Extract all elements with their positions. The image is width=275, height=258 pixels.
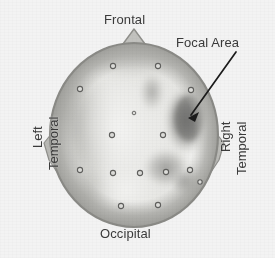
electrode-marker (77, 86, 82, 91)
electrode-marker (187, 167, 192, 172)
label-occipital: Occipital (100, 226, 151, 241)
electrode-marker (198, 180, 202, 184)
label-left-temporal-line1: Left (30, 126, 45, 148)
electrode-marker (155, 202, 160, 207)
label-right-temporal-line1: Right (218, 122, 233, 152)
label-left-temporal-line2: Temporal (46, 117, 61, 170)
electrode-marker (132, 111, 136, 115)
label-right-temporal-line2: Temporal (234, 122, 249, 175)
electrode-marker (160, 132, 165, 137)
electrode-marker (163, 169, 168, 174)
electrode-marker (155, 63, 160, 68)
electrode-marker (77, 167, 82, 172)
electrode-marker (137, 170, 142, 175)
electrode-marker (110, 170, 115, 175)
label-frontal: Frontal (104, 12, 145, 27)
electrode-marker (110, 63, 115, 68)
electrode-marker (118, 203, 123, 208)
electrode-marker (188, 87, 193, 92)
electrode-marker (109, 132, 114, 137)
scalp-field (36, 34, 218, 240)
eeg-topographic-map-figure: Frontal Occipital Focal Area Left Tempor… (0, 0, 275, 258)
label-focal-area: Focal Area (176, 35, 239, 50)
